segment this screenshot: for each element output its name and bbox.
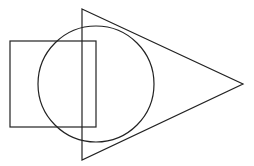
triangle-shape bbox=[82, 9, 243, 160]
geometric-shapes-diagram bbox=[0, 0, 254, 166]
square-shape bbox=[10, 41, 96, 127]
